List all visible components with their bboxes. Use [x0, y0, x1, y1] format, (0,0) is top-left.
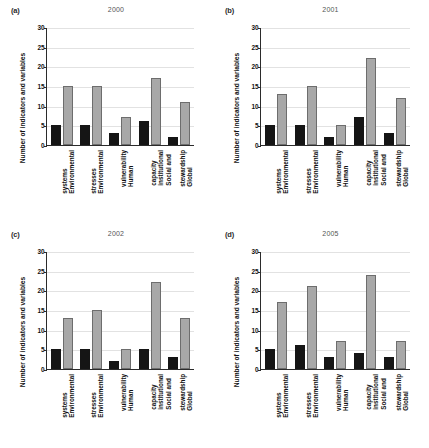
- y-axis-title: Number of indicators and variables: [231, 44, 242, 172]
- x-axis-label: Environmentalsystems: [50, 372, 72, 448]
- x-axis-label-line: Environmental: [68, 374, 75, 418]
- bar: [396, 98, 406, 145]
- bar: [109, 361, 119, 369]
- bar: [307, 86, 317, 145]
- x-axis-label: Social andinstitutionalcapacity: [354, 148, 376, 224]
- bar-group: [51, 28, 73, 145]
- x-axis-label-line: institutional: [372, 374, 379, 410]
- bar-group: [139, 28, 161, 145]
- y-tick-label: 10: [251, 103, 258, 109]
- y-tick-label: 25: [37, 44, 44, 50]
- bar: [295, 125, 305, 145]
- x-axis-label-line: capacity: [365, 374, 372, 410]
- bar-group: [295, 252, 317, 369]
- bar: [336, 341, 346, 369]
- bar-group: [51, 252, 73, 369]
- x-axis-label-line: Human: [342, 150, 349, 187]
- x-axis-labels: EnvironmentalsystemsEnvironmentalstresse…: [260, 148, 410, 224]
- y-tick-label: 20: [251, 288, 258, 294]
- x-axis-label-line: Environmental: [282, 374, 289, 418]
- bar: [121, 117, 131, 145]
- bar-group: [168, 252, 190, 369]
- bar-group: [80, 28, 102, 145]
- y-tick-label: 15: [37, 308, 44, 314]
- bar-group: [324, 252, 346, 369]
- plot-area: 051015202530: [46, 252, 194, 370]
- plot-area: 051015202530: [46, 28, 194, 146]
- bar: [354, 353, 364, 369]
- y-tick-label: 5: [41, 347, 45, 353]
- x-axis-label: Social andinstitutionalcapacity: [139, 372, 161, 448]
- x-axis-label: Environmentalstresses: [294, 372, 316, 448]
- bar-container: [47, 28, 194, 145]
- y-tick-label: 20: [251, 64, 258, 70]
- x-axis-label-line: vulnerability: [335, 150, 342, 187]
- y-tick-label: 0: [255, 143, 259, 149]
- bar: [51, 125, 61, 145]
- bar: [151, 78, 161, 145]
- bar: [277, 302, 287, 369]
- bar: [384, 133, 394, 145]
- x-axis-labels: EnvironmentalsystemsEnvironmentalstresse…: [46, 372, 194, 448]
- y-tick-label: 25: [251, 268, 258, 274]
- bar-group: [384, 252, 406, 369]
- bar: [336, 125, 346, 145]
- x-axis-label: Humanvulnerability: [324, 148, 346, 224]
- bar: [324, 137, 334, 145]
- bar-group: [324, 28, 346, 145]
- x-axis-label-line: institutional: [157, 150, 164, 186]
- y-tick-label: 20: [37, 64, 44, 70]
- bar-group: [354, 252, 376, 369]
- x-axis-label-line: Human: [342, 374, 349, 411]
- bar: [63, 318, 73, 369]
- y-tick-label: 10: [37, 327, 44, 333]
- bar: [265, 349, 275, 369]
- x-axis-label-line: Environmental: [312, 374, 319, 418]
- bar: [92, 86, 102, 145]
- x-axis-label: Humanvulnerability: [109, 372, 131, 448]
- bar: [139, 121, 149, 145]
- y-tick-label: 10: [37, 103, 44, 109]
- panel-title: 2001: [214, 6, 429, 13]
- bar: [384, 357, 394, 369]
- x-axis-label: Globalstewardship: [168, 372, 190, 448]
- bar: [180, 102, 190, 145]
- x-axis-label-line: capacity: [150, 150, 157, 186]
- panel-title: 2005: [214, 230, 429, 237]
- panel-title: 2000: [0, 6, 214, 13]
- y-tick-label: 30: [251, 249, 258, 255]
- x-axis-label-line: Global: [402, 150, 409, 187]
- bar: [121, 349, 131, 369]
- y-tick-label: 20: [37, 288, 44, 294]
- y-tick-label: 15: [251, 308, 258, 314]
- figure-panel-grid: (a)2000Number of indicators and variable…: [0, 0, 429, 448]
- bar: [109, 133, 119, 145]
- bar-group: [354, 28, 376, 145]
- x-axis-label-line: stresses: [305, 374, 312, 418]
- bar-container: [261, 28, 410, 145]
- x-axis-label-line: vulnerability: [335, 374, 342, 411]
- x-axis-label-line: Global: [402, 374, 409, 411]
- plot-area: 051015202530: [260, 252, 410, 370]
- x-axis-label-line: systems: [275, 150, 282, 194]
- bar-group: [139, 252, 161, 369]
- y-tick-label: 30: [251, 25, 258, 31]
- bar: [354, 117, 364, 145]
- bar: [366, 275, 376, 369]
- bar: [366, 58, 376, 145]
- x-axis-label: Social andinstitutionalcapacity: [139, 148, 161, 224]
- bar: [151, 282, 161, 369]
- x-axis-label-line: capacity: [365, 150, 372, 186]
- x-axis-label: Social andinstitutionalcapacity: [354, 372, 376, 448]
- x-axis-label-line: Global: [187, 374, 194, 411]
- bar-group: [109, 252, 131, 369]
- x-axis-label-line: Environmental: [98, 374, 105, 418]
- bar-group: [384, 28, 406, 145]
- bar: [168, 357, 178, 369]
- chart-panel: (c)2002Number of indicators and variable…: [0, 224, 214, 448]
- y-tick-label: 15: [251, 84, 258, 90]
- x-axis-label-line: institutional: [157, 374, 164, 410]
- x-axis-label: Environmentalstresses: [294, 148, 316, 224]
- bar-group: [265, 28, 287, 145]
- x-axis-label-line: vulnerability: [120, 374, 127, 411]
